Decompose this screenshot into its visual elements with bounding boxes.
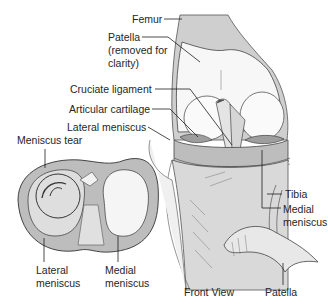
label-lateral-meniscus-front: Lateral meniscus [67,121,146,133]
label-front-view: Front View [184,286,234,298]
label-patella-removed-line3: clarity) [108,57,139,69]
label-femur: Femur [132,13,162,25]
label-patella-removed-line1: Patella [108,31,140,43]
label-medial-meniscus-top-line2: meniscus [105,277,149,289]
label-medial-meniscus-front-line1: Medial [283,203,314,215]
label-articular-cartilage: Articular cartilage [69,103,150,115]
label-meniscus-tear: Meniscus tear [17,134,82,146]
label-patella-bottom: Patella [265,286,297,298]
label-lateral-meniscus-top-line2: meniscus [36,277,80,289]
label-medial-meniscus-top-line1: Medial [105,264,136,276]
label-patella-removed-line2: (removed for [108,44,168,56]
label-medial-meniscus-front-line2: meniscus [283,216,327,228]
meniscus-top-view [18,159,158,253]
label-cruciate-ligament: Cruciate ligament [70,83,152,95]
label-tibia: Tibia [285,188,307,200]
label-lateral-meniscus-top-line1: Lateral [36,264,68,276]
